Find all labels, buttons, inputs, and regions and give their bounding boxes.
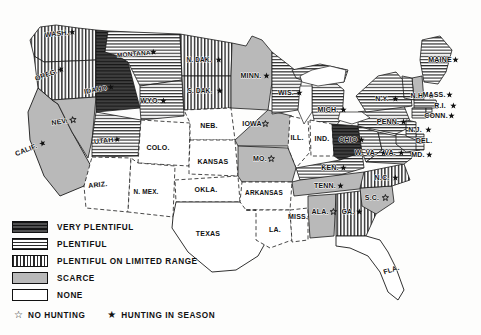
state-label-conn: CONN. [424, 112, 448, 119]
state-label-sdak: S. DAK. [188, 87, 213, 94]
state-label-maine: MAINE [428, 56, 452, 63]
state-kansas: KANSAS [198, 158, 229, 165]
state-shape-IOWA [235, 110, 292, 146]
state-neb: NEB. [200, 122, 218, 129]
state-label-ohio: OHIO [339, 136, 358, 143]
legend-swatch-plentiful [12, 238, 48, 250]
hunting-in-season-star-icon-md [426, 152, 432, 158]
state-label-md: MD. [411, 151, 424, 158]
state-shape-MO [238, 146, 296, 182]
state-label-ill: ILL. [290, 134, 303, 141]
state-mass: MASS. [422, 91, 452, 98]
state-del: DEL. [416, 137, 433, 144]
symbol-label-no-hunting: NO HUNTING [28, 311, 85, 320]
state-label-la: LA. [269, 226, 281, 233]
no-hunting-star-icon: ☆ [14, 310, 23, 320]
state-label-wyo: WYO. [140, 97, 159, 104]
hunting-in-season-star-icon-conn [448, 113, 454, 119]
state-label-ny: N.Y. [375, 95, 389, 102]
state-shape-COLO [138, 120, 190, 166]
legend-row-very: VERY PLENTIFUL [12, 219, 252, 235]
state-label-iowa: IOWA [242, 120, 261, 127]
state-conn: CONN. [424, 112, 454, 119]
legend-swatch-very [12, 221, 48, 233]
state-okla: OKLA. [195, 186, 218, 193]
state-label-sc: S.C. [365, 194, 379, 201]
hunting-in-season-star-icon-mass [446, 92, 452, 98]
state-label-neb: NEB. [200, 122, 218, 129]
hunting-in-season-star-icon: ★ [107, 310, 116, 320]
state-label-nj: N.J. [408, 126, 422, 133]
legend-swatch-limited [12, 255, 48, 267]
state-shape-NDAK [180, 34, 232, 76]
symbol-label-hunting-in-season: HUNTING IN SEASON [121, 311, 215, 320]
legend-label-plentiful: PLENTIFUL [57, 240, 107, 249]
state-colo: COLO. [146, 144, 169, 151]
hunting-in-season-star-icon-nj [425, 127, 431, 133]
legend-label-limited: PLENTIFUL ON LIMITED RANGE [57, 257, 198, 266]
legend-label-very: VERY PLENTIFUL [57, 223, 134, 232]
legend-row-limited: PLENTIFUL ON LIMITED RANGE [12, 253, 252, 269]
hunting-in-season-star-icon-maine [452, 57, 458, 63]
state-label-mich: MICH. [318, 106, 339, 113]
legend: VERY PLENTIFULPLENTIFULPLENTIFUL ON LIMI… [12, 219, 252, 304]
state-ark: ARKANSAS [245, 189, 283, 196]
state-label-calif: CALIF. [14, 142, 38, 157]
legend-label-scarce: SCARCE [57, 274, 95, 283]
state-label-penn: PENN. [377, 118, 399, 125]
symbol-item-no-hunting: ☆NO HUNTING [14, 310, 85, 320]
state-nmex: N. MEX. [133, 188, 158, 195]
legend-swatch-scarce [12, 272, 48, 284]
state-label-ken: KEN. [321, 164, 339, 171]
legend-symbols: ☆NO HUNTING★HUNTING IN SEASON [14, 310, 237, 320]
state-label-nc: N.C. [375, 174, 390, 181]
hunting-in-season-star-icon-ri [450, 103, 456, 109]
symbol-item-hunting-in-season: ★HUNTING IN SEASON [107, 310, 215, 320]
legend-row-scarce: SCARCE [12, 270, 252, 286]
state-label-minn: MINN. [241, 72, 262, 79]
state-label-ala: ALA. [311, 208, 328, 215]
state-label-miss: MISS. [288, 213, 308, 220]
state-label-ind: IND. [315, 135, 330, 142]
state-shape-UTAH [92, 112, 141, 157]
state-label-tenn: TENN. [314, 182, 336, 189]
state-label-okla: OKLA. [195, 186, 218, 193]
state-la: LA. [269, 226, 281, 233]
state-label-va: VA. [384, 149, 396, 156]
legend-swatch-none [12, 289, 48, 301]
state-label-mo: MO. [253, 155, 267, 162]
state-label-ri: R.I. [434, 102, 446, 109]
state-label-wis: WIS. [278, 89, 294, 96]
legend-label-none: NONE [57, 291, 83, 300]
state-label-kansas: KANSAS [198, 158, 229, 165]
state-ind: IND. [315, 135, 330, 142]
legend-row-none: NONE [12, 287, 252, 303]
state-label-ark: ARKANSAS [245, 189, 283, 196]
state-label-del: DEL. [416, 137, 433, 144]
state-md: MD. [411, 151, 432, 158]
state-ri: R.I. [434, 102, 456, 109]
legend-row-plentiful: PLENTIFUL [12, 236, 252, 252]
state-ill: ILL. [290, 134, 303, 141]
state-label-ga: GA. [341, 208, 354, 215]
state-shape-ARK [240, 182, 292, 210]
state-label-mass: MASS. [422, 91, 445, 98]
state-label-wva: W. VA. [355, 149, 377, 156]
state-maine: MAINE [428, 56, 458, 63]
map-container: WASH.OREG.IDAHOMONTANAWYO.N. DAK.S. DAK.… [0, 0, 481, 335]
state-shape-ALA [308, 194, 336, 238]
state-label-colo: COLO. [146, 144, 169, 151]
state-label-nmex: N. MEX. [133, 188, 158, 195]
state-label-ndak: N. DAK. [186, 56, 211, 63]
state-nj: N.J. [408, 126, 431, 133]
state-miss: MISS. [288, 213, 308, 220]
state-shape-WIS [272, 52, 302, 114]
